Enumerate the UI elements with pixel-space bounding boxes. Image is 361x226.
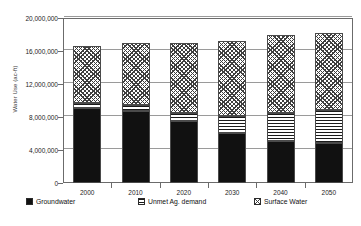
bar-segment-groundwater[interactable] xyxy=(122,111,150,183)
x-tick-mark xyxy=(111,183,112,188)
bar-segment-unmet-ag-demand[interactable] xyxy=(218,116,246,133)
legend-label-groundwater: Groundwater xyxy=(36,198,75,205)
y-tick-mark xyxy=(58,150,63,151)
legend-label-unmet: Unmet Ag. demand xyxy=(148,198,206,205)
bar-segment-groundwater[interactable] xyxy=(170,121,198,183)
y-tick-label: 0 xyxy=(0,180,58,187)
legend-label-surface: Surface Water xyxy=(264,198,307,205)
bar-segment-unmet-ag-demand[interactable] xyxy=(73,103,101,108)
y-tick-mark xyxy=(58,51,63,52)
bar-segment-unmet-ag-demand[interactable] xyxy=(170,113,198,121)
bar-segment-groundwater[interactable] xyxy=(267,141,295,183)
bar-segment-surface-water[interactable] xyxy=(267,35,295,113)
bar-segment-surface-water[interactable] xyxy=(170,43,198,113)
bar-segment-groundwater[interactable] xyxy=(218,133,246,183)
legend-swatch-surface-icon xyxy=(254,198,261,205)
bar-segment-surface-water[interactable] xyxy=(73,46,101,103)
legend-swatch-groundwater-icon xyxy=(26,198,33,205)
bar-segment-groundwater[interactable] xyxy=(73,108,101,183)
gridline xyxy=(64,82,352,83)
bar-2010[interactable] xyxy=(122,18,150,183)
legend-item-surface[interactable]: Surface Water xyxy=(254,198,307,205)
y-tick-mark xyxy=(58,18,63,19)
x-tick-label-2050: 2050 xyxy=(299,189,359,196)
bar-2030[interactable] xyxy=(218,18,246,183)
bar-segment-unmet-ag-demand[interactable] xyxy=(267,113,295,141)
water-use-chart: Water Use (ac-ft) 04,000,0008,000,00012,… xyxy=(0,0,361,226)
bar-2050[interactable] xyxy=(315,18,343,183)
y-tick-mark xyxy=(58,183,63,184)
y-tick-label: 8,000,000 xyxy=(0,114,58,121)
y-tick-label: 16,000,000 xyxy=(0,48,58,55)
gridline xyxy=(64,115,352,116)
legend-item-groundwater[interactable]: Groundwater xyxy=(26,198,75,205)
bar-2040[interactable] xyxy=(267,18,295,183)
y-tick-mark xyxy=(58,84,63,85)
bar-segment-surface-water[interactable] xyxy=(315,33,343,111)
gridline xyxy=(64,148,352,149)
y-tick-label: 4,000,000 xyxy=(0,147,58,154)
x-tick-mark xyxy=(208,183,209,188)
bar-segment-groundwater[interactable] xyxy=(315,143,343,183)
bar-segment-unmet-ag-demand[interactable] xyxy=(122,105,150,111)
legend-item-unmet[interactable]: Unmet Ag. demand xyxy=(138,198,206,205)
bar-segment-unmet-ag-demand[interactable] xyxy=(315,110,343,143)
bar-2020[interactable] xyxy=(170,18,198,183)
y-tick-label: 20,000,000 xyxy=(0,15,58,22)
bar-2000[interactable] xyxy=(73,18,101,183)
y-tick-label: 12,000,000 xyxy=(0,81,58,88)
x-tick-mark xyxy=(160,183,161,188)
bar-segment-surface-water[interactable] xyxy=(122,43,150,106)
x-tick-mark xyxy=(256,183,257,188)
legend-swatch-unmet-icon xyxy=(138,198,145,205)
y-tick-mark xyxy=(58,117,63,118)
plot-area xyxy=(63,18,353,183)
bar-segment-surface-water[interactable] xyxy=(218,41,246,116)
gridline xyxy=(64,16,352,17)
chart-legend: GroundwaterUnmet Ag. demandSurface Water xyxy=(26,198,346,210)
x-tick-mark xyxy=(305,183,306,188)
gridline xyxy=(64,49,352,50)
